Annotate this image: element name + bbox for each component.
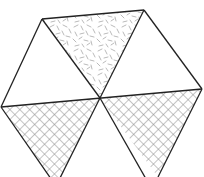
triangle-lower-right xyxy=(100,89,202,177)
triangle-lower-left xyxy=(1,98,100,177)
hexagon-diagram xyxy=(0,0,204,177)
triangle-top xyxy=(42,10,144,98)
